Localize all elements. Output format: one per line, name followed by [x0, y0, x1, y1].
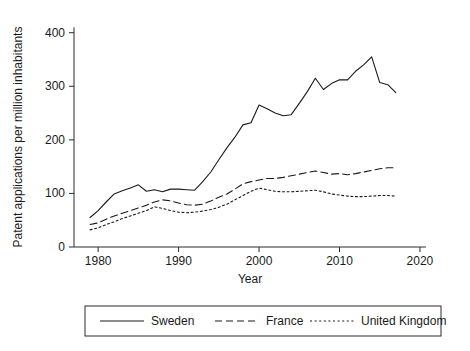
- legend-label-united-kingdom[interactable]: United Kingdom: [361, 314, 446, 328]
- legend: SwedenFranceUnited Kingdom: [85, 306, 446, 336]
- x-tick-label: 2000: [246, 254, 273, 268]
- x-tick-label: 1980: [85, 254, 112, 268]
- y-tick-label: 100: [45, 186, 65, 200]
- legend-label-sweden[interactable]: Sweden: [151, 314, 194, 328]
- x-axis-title: Year: [238, 272, 262, 286]
- x-tick-label: 2020: [407, 254, 434, 268]
- data-series-group: [90, 57, 396, 230]
- series-line-sweden: [90, 57, 396, 218]
- x-tick-label: 1990: [165, 254, 192, 268]
- series-line-france: [90, 168, 396, 225]
- x-axis-ticks: 19801990200020102020: [85, 247, 434, 268]
- x-tick-label: 2010: [326, 254, 353, 268]
- y-axis-ticks: 0100200300400: [45, 26, 74, 254]
- y-tick-label: 300: [45, 79, 65, 93]
- y-tick-label: 200: [45, 133, 65, 147]
- y-tick-label: 0: [58, 240, 65, 254]
- y-axis-title: Patent applications per million inhabita…: [11, 27, 25, 248]
- legend-label-france[interactable]: France: [266, 314, 304, 328]
- y-axis-group: 0100200300400: [45, 26, 74, 254]
- chart-canvas: 0100200300400 19801990200020102020 Paten…: [0, 0, 470, 351]
- x-axis-group: 19801990200020102020: [74, 247, 434, 268]
- patent-applications-line-chart: 0100200300400 19801990200020102020 Paten…: [0, 0, 470, 351]
- legend-items: SwedenFranceUnited Kingdom: [100, 314, 446, 328]
- y-tick-label: 400: [45, 26, 65, 40]
